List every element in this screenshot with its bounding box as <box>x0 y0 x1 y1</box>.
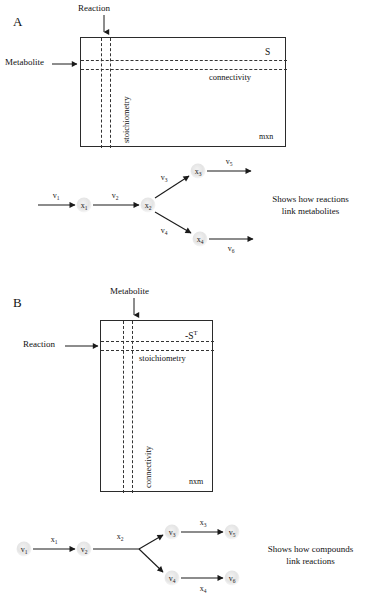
panel-a-edge-label-v2: v2 <box>112 191 119 201</box>
panel-b-letter: B <box>13 295 22 311</box>
panel-b-caption-line2: link reactions <box>256 555 365 567</box>
panel-a-top-arrow-icon <box>100 15 112 39</box>
panel-a-edge-label-v4: v4 <box>161 226 168 236</box>
panel-b-edge-label-x3: x3 <box>200 518 207 528</box>
panel-b-edge-label-x1: x1 <box>51 535 58 545</box>
panel-b-column-dash-right <box>132 321 133 493</box>
panel-b-matrix-dimensions: nxm <box>189 477 203 486</box>
panel-a-row-dash-top <box>81 60 287 61</box>
panel-b-matrix-name: -ST <box>185 329 197 341</box>
panel-a-letter: A <box>13 14 22 30</box>
panel-b-column-dash-left <box>123 321 124 493</box>
panel-a-column-dash-left <box>101 38 102 148</box>
panel-b-edge-label-x2: x2 <box>117 532 124 542</box>
panel-a-top-label: Reaction <box>78 3 110 13</box>
panel-a-network: x1 x2 x3 x4 v1 v2 v3 v4 v5 v6 <box>0 150 265 260</box>
panel-b-row-dash-bottom <box>101 350 214 351</box>
panel-a-caption: Shows how reactions link metabolites <box>258 193 363 217</box>
panel-b-edge-label-x4: x4 <box>200 584 207 594</box>
panel-a-row-label: connectivity <box>209 72 251 82</box>
panel-b-network: v1 v2 v3 v4 v5 v6 x1 x2 x3 x4 <box>0 515 265 605</box>
panel-b-matrix-name-transpose: T <box>193 329 197 336</box>
panel-b-caption: Shows how compounds link reactions <box>256 543 365 567</box>
panel-a-edge-label-v1: v1 <box>53 191 60 201</box>
panel-b-column-label: connectivity <box>143 446 153 488</box>
panel-b-left-label: Reaction <box>23 339 55 349</box>
panel-a-left-label: Metabolite <box>5 57 44 67</box>
panel-a-matrix-name: S <box>265 47 270 57</box>
panel-a-edge-label-v5: v5 <box>226 157 233 167</box>
panel-a-row-dash-bottom <box>81 69 287 70</box>
panel-b-edge-x2-upper <box>139 535 163 549</box>
panel-b-row-label: stoichiometry <box>139 353 186 363</box>
panel-a-edge-label-v3: v3 <box>161 173 168 183</box>
panel-a-column-label: stoichiometry <box>121 96 131 143</box>
panel-b-edge-x2-lower <box>139 549 163 572</box>
panel-b-matrix-box: -ST stoichiometry connectivity nxm <box>100 320 213 492</box>
panel-a-matrix-box: S connectivity stoichiometry mxn <box>80 37 286 147</box>
panel-a-edge-label-v6: v6 <box>228 244 235 254</box>
panel-b-left-arrow-icon <box>65 340 103 352</box>
panel-a-caption-line1: Shows how reactions <box>258 193 363 205</box>
panel-a-matrix-dimensions: mxn <box>259 132 273 141</box>
panel-b-top-arrow-icon <box>130 298 142 322</box>
panel-a-column-dash-right <box>110 38 111 148</box>
panel-a-left-arrow-icon <box>52 58 82 70</box>
panel-b-top-label: Metabolite <box>110 286 149 296</box>
panel-a-caption-line2: link metabolites <box>258 205 363 217</box>
panel-b-caption-line1: Shows how compounds <box>256 543 365 555</box>
